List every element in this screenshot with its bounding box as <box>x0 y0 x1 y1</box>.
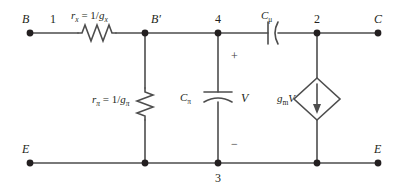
circuit-diagram: B 1 rx = 1/gx B′ 4 Cμ 2 C rπ = 1/gπ Cπ V… <box>0 0 405 194</box>
component-label-rpi: rπ = 1/gπ <box>92 94 130 108</box>
component-label-gmv: gmV <box>277 93 295 107</box>
rpi-g-sub: π <box>126 99 130 108</box>
terminal-label-c: C <box>374 13 382 25</box>
schematic-svg <box>0 0 405 194</box>
node-dot-n3 <box>215 160 222 167</box>
terminal-label-b: B <box>22 13 29 25</box>
node-label-1: 1 <box>50 13 56 25</box>
component-label-cmu: Cμ <box>261 10 272 24</box>
cpi-c-sub: π <box>187 97 191 106</box>
node-dot-rpi-emitter <box>142 160 149 167</box>
terminal-label-e-left: E <box>22 143 29 155</box>
node-dot-bprime <box>142 30 149 37</box>
cmu-c-sub: μ <box>268 15 272 24</box>
node-dot-e-right <box>375 160 382 167</box>
node-dot-b <box>27 30 34 37</box>
resistor-rpi-symbol <box>137 88 153 120</box>
gmv-v: V <box>288 92 295 104</box>
rx-eq: = 1/ <box>79 9 99 21</box>
node-dot-n2 <box>314 30 321 37</box>
source-arrow-head <box>313 104 321 114</box>
node-dot-e-left <box>27 160 34 167</box>
voltage-label-v: V <box>241 92 248 104</box>
component-label-cpi: Cπ <box>180 92 191 106</box>
node-label-2: 2 <box>314 13 320 25</box>
resistor-rx-symbol <box>78 25 116 41</box>
node-label-4: 4 <box>215 13 221 25</box>
polarity-minus: − <box>231 138 238 150</box>
node-dot-source-emitter <box>314 160 321 167</box>
rpi-eq: = 1/ <box>100 93 120 105</box>
rx-g-sub: x <box>104 15 107 24</box>
node-label-3: 3 <box>215 172 221 184</box>
polarity-plus: + <box>231 50 238 62</box>
node-dot-n4 <box>215 30 222 37</box>
node-label-bprime: B′ <box>151 13 161 25</box>
component-label-rx: rx = 1/gx <box>71 10 108 24</box>
node-dot-c <box>375 30 382 37</box>
terminal-label-e-right: E <box>374 143 381 155</box>
